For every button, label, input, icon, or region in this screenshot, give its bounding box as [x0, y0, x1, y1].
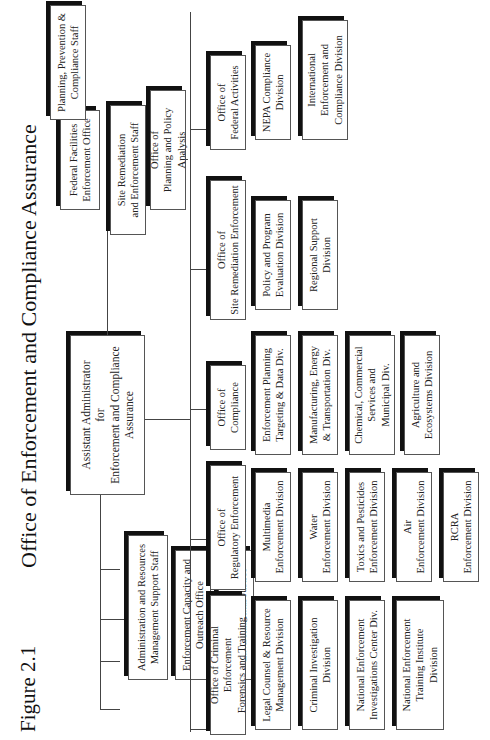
office-label: Office of Regulatory Enforcement	[215, 476, 241, 580]
office-label: Office of Compliance	[215, 382, 241, 433]
division-box: NEPA Compliance Division	[255, 45, 291, 140]
office-box-federal-activities: Office of Federal Activities	[210, 55, 246, 150]
division-label: Policy and Program Evaluation Division	[260, 213, 286, 297]
staff-label: Site Remediation and Enforcement Staff	[115, 123, 141, 218]
connector	[145, 419, 190, 420]
division-box: National Enforcement Training Institute …	[396, 600, 444, 730]
division-box: National Enforcement Investigations Cent…	[349, 600, 385, 730]
division-label: Regional Support Division	[307, 218, 333, 292]
connector	[190, 129, 210, 130]
division-label: Chemical, Commercial Services and Munici…	[352, 346, 391, 443]
office-box-regulatory-enforcement: Office of Regulatory Enforcement	[210, 465, 246, 590]
org-chart: Figure 2.1 Office of Enforcement and Com…	[0, 0, 490, 740]
division-box: Multimedia Enforcement Division	[255, 472, 291, 582]
office-label: Office of Planning and Policy Analysis	[148, 95, 187, 205]
division-box: International Enforcement and Compliance…	[302, 20, 348, 140]
division-box: Criminal Investigation Division	[302, 600, 338, 730]
division-label: RCRA Enforcement Division	[448, 480, 474, 573]
connector	[100, 709, 120, 710]
division-box: RCRA Enforcement Division	[443, 472, 479, 582]
division-label: Water Enforcement Division	[307, 480, 333, 573]
division-box: Manufacturing, Energy & Transportation D…	[302, 335, 338, 455]
division-label: Agriculture and Ecosystems Division	[409, 351, 435, 439]
division-label: Legal Counsel & Resource Management Divi…	[260, 608, 286, 721]
connector	[190, 12, 191, 732]
connector	[100, 569, 120, 570]
division-box: Air Enforcement Division	[396, 472, 432, 582]
division-label: Toxics and Pesticides Enforcement Divisi…	[354, 480, 380, 573]
division-box: Legal Counsel & Resource Management Divi…	[255, 600, 291, 730]
office-box-criminal-enforcement: Office of Criminal Enforcement Forensics…	[210, 595, 246, 735]
staff-box-site-remediation: Site Remediation and Enforcement Staff	[110, 105, 146, 235]
connector	[100, 620, 101, 710]
office-box-compliance: Office of Compliance	[210, 365, 246, 450]
division-label: National Enforcement Training Institute …	[400, 619, 439, 712]
connector	[190, 409, 210, 410]
division-box: Toxics and Pesticides Enforcement Divisi…	[349, 472, 385, 582]
office-label: Office of Criminal Enforcement Forensics…	[208, 600, 247, 730]
staff-label: Federal Facilities Enforcement Office	[67, 118, 93, 201]
division-label: NEPA Compliance Division	[260, 53, 286, 132]
connector	[107, 155, 108, 335]
staff-label: Enforcement Capacity and Outreach Office	[180, 559, 206, 671]
connector	[190, 539, 210, 540]
division-box: Regional Support Division	[302, 200, 338, 310]
division-label: Multimedia Enforcement Division	[260, 480, 286, 573]
division-box: Water Enforcement Division	[302, 472, 338, 582]
staff-label: Administration and Resources Management …	[135, 544, 161, 671]
division-label: Criminal Investigation Division	[307, 618, 333, 713]
staff-label: Planning, Prevention & Compliance Staff	[55, 13, 81, 112]
staff-box-planning-prevention: Planning, Prevention & Compliance Staff	[50, 5, 86, 120]
division-box: Enforcement Planning Targeting & Data Di…	[255, 335, 291, 455]
staff-box-enforcement-capacity: Enforcement Capacity and Outreach Office	[175, 550, 211, 680]
office-box-site-remediation: Office of Site Remediation Enforcement	[210, 180, 246, 320]
connector	[190, 269, 210, 270]
connector	[100, 661, 120, 662]
division-label: Manufacturing, Energy & Transportation D…	[307, 346, 333, 444]
head-box-assistant-administrator: Assistant Administrator for Enforcement …	[70, 335, 145, 495]
chart-title: Office of Enforcement and Compliance Ass…	[16, 124, 42, 568]
office-box-planning-policy: Office of Planning and Policy Analysis	[150, 90, 186, 210]
division-label: Enforcement Planning Targeting & Data Di…	[260, 348, 286, 442]
staff-box-federal-facilities: Federal Facilities Enforcement Office	[60, 110, 100, 210]
division-box: Policy and Program Evaluation Division	[255, 200, 291, 310]
office-label: Office of Federal Activities	[215, 65, 241, 139]
division-label: International Enforcement and Compliance…	[305, 35, 344, 125]
division-label: Air Enforcement Division	[401, 480, 427, 573]
division-label: National Enforcement Investigations Cent…	[354, 610, 380, 720]
division-box: Agriculture and Ecosystems Division	[404, 335, 440, 455]
office-label: Office of Site Remediation Enforcement	[215, 185, 241, 314]
division-box: Chemical, Commercial Services and Munici…	[349, 335, 395, 455]
connector	[190, 729, 210, 730]
staff-box-admin-resources: Administration and Resources Management …	[128, 535, 168, 680]
figure-label: Figure 2.1	[16, 646, 41, 732]
head-label: Assistant Administrator for Enforcement …	[79, 346, 137, 483]
